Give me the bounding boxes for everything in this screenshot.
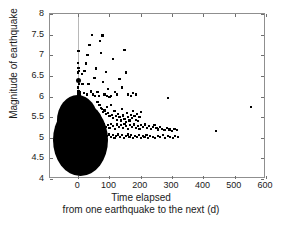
scatter-point: [95, 67, 97, 69]
x-tick-top-400: [203, 14, 204, 17]
scatter-point: [133, 123, 135, 125]
scatter-point: [111, 114, 113, 116]
y-tick-6: [50, 97, 53, 98]
scatter-point: [79, 93, 81, 95]
scatter-point: [98, 95, 100, 97]
x-tick-top-600: [266, 14, 267, 17]
scatter-point: [215, 130, 217, 132]
scatter-point: [177, 136, 179, 138]
x-tick-top-100: [109, 14, 110, 17]
scatter-point: [77, 62, 79, 64]
x-tick-600: [266, 176, 267, 179]
x-axis-title-line2: from one earthquake to the next (d): [0, 204, 282, 216]
scatter-point: [112, 58, 114, 60]
y-tick-label-8: 8: [0, 8, 48, 18]
earthquake-magnitude-scatter-figure: Magnitude of earthquake 44.555.566.577.5…: [0, 0, 282, 230]
scatter-point: [107, 88, 109, 90]
y-tick-7: [50, 55, 53, 56]
x-tick-label-300: 300: [164, 180, 179, 190]
y-tick-4: [50, 179, 53, 180]
x-tick-label-400: 400: [195, 180, 210, 190]
scatter-point: [122, 114, 124, 116]
scatter-point: [87, 83, 89, 85]
scatter-point: [85, 62, 87, 64]
x-tick-300: [172, 176, 173, 179]
scatter-point: [116, 93, 118, 95]
scatter-point: [94, 95, 96, 97]
scatter-point: [123, 49, 125, 51]
scatter-point: [101, 34, 103, 36]
scatter-point: [135, 93, 137, 95]
scatter-point: [140, 111, 142, 113]
y-tick-label-7: 7: [0, 49, 48, 59]
y-tick-right-6: [261, 97, 264, 98]
scatter-point-highlighted: [76, 78, 81, 83]
scatter-point: [78, 83, 80, 85]
y-tick-right-5.5: [261, 117, 264, 118]
x-tick-top-200: [141, 14, 142, 17]
x-tick-0: [78, 176, 79, 179]
scatter-point: [167, 97, 169, 99]
x-tick-400: [203, 176, 204, 179]
x-tick-200: [141, 176, 142, 179]
scatter-point: [116, 119, 118, 121]
scatter-point: [110, 104, 112, 106]
scatter-point: [81, 73, 83, 75]
scatter-point: [120, 119, 122, 121]
scatter-point: [123, 118, 125, 120]
scatter-point: [130, 95, 132, 97]
x-tick-top-300: [172, 14, 173, 17]
scatter-point: [122, 127, 124, 129]
scatter-point: [132, 110, 134, 112]
scatter-point: [110, 95, 112, 97]
y-tick-5: [50, 138, 53, 139]
y-tick-right-5: [261, 138, 264, 139]
scatter-point: [77, 86, 79, 88]
scatter-point: [144, 123, 146, 125]
x-tick-label-500: 500: [226, 180, 241, 190]
scatter-point: [114, 128, 116, 130]
scatter-point: [86, 54, 88, 56]
x-tick-label-200: 200: [132, 180, 147, 190]
scatter-point: [80, 99, 82, 101]
x-tick-500: [235, 176, 236, 179]
scatter-point: [176, 129, 178, 131]
plot-frame: [49, 13, 265, 178]
scatter-point: [136, 113, 138, 115]
scatter-point: [133, 115, 135, 117]
scatter-point: [118, 78, 120, 80]
y-tick-right-4.5: [261, 158, 264, 159]
y-tick-label-6: 6: [0, 91, 48, 101]
x-tick-label-600: 600: [257, 180, 272, 190]
y-tick-label-4.5: 4.5: [0, 152, 48, 162]
x-axis-title-line1: Time elapsed: [111, 192, 171, 203]
x-tick-label-100: 100: [101, 180, 116, 190]
scatter-point: [128, 119, 130, 121]
scatter-point: [102, 81, 104, 83]
scatter-point: [91, 34, 93, 36]
y-tick-right-6.5: [261, 76, 264, 77]
scatter-point: [77, 50, 79, 52]
y-tick-right-8: [261, 14, 264, 15]
scatter-point: [137, 120, 139, 122]
scatter-point: [127, 128, 129, 130]
scatter-point: [117, 113, 119, 115]
scatter-point: [108, 127, 110, 129]
scatter-point: [126, 112, 128, 114]
scatter-point: [105, 71, 107, 73]
y-tick-4.5: [50, 158, 53, 159]
scatter-point: [121, 86, 123, 88]
scatter-point: [115, 115, 117, 117]
scatter-point: [83, 70, 85, 72]
plot-area: [50, 14, 264, 177]
scatter-point: [118, 116, 120, 118]
scatter-point: [106, 106, 108, 108]
scatter-point: [88, 44, 90, 46]
scatter-point: [107, 112, 109, 114]
scatter-point: [127, 116, 129, 118]
scatter-point: [103, 109, 105, 111]
y-tick-right-7.5: [261, 35, 264, 36]
scatter-point: [113, 110, 115, 112]
x-tick-top-500: [235, 14, 236, 17]
y-tick-label-5.5: 5.5: [0, 111, 48, 121]
